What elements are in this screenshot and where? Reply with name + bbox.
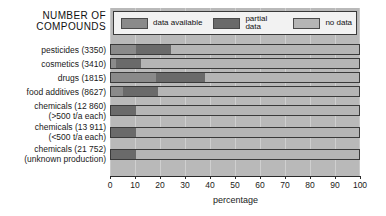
x-tick-label-60: 60 [255, 180, 264, 190]
x-tick-label-50: 50 [230, 180, 239, 190]
category-label-text-line2: (>500 t/a each) [34, 111, 106, 121]
x-tick-0 [110, 176, 111, 179]
x-tick-label-80: 80 [305, 180, 314, 190]
x-tick-label-100: 100 [353, 180, 367, 190]
category-label-text: drugs (1815) [58, 73, 106, 83]
bar-segment-partial [111, 128, 136, 137]
category-label-text: food additives (8627) [27, 87, 106, 97]
stacked-bar-chart: data available partial data no data NUMB… [0, 0, 386, 216]
category-label-chemicals-over-500: chemicals (12 860) (>500 t/a each) [34, 101, 106, 121]
category-label-chemicals-unknown: chemicals (21 752) (unknown production) [24, 144, 106, 164]
category-label-pesticides: pesticides (3350) [41, 45, 106, 55]
bar-pesticides [110, 44, 360, 55]
x-tick-100 [360, 176, 361, 179]
bar-segment-avail [111, 45, 136, 54]
bar-segment-none [205, 73, 359, 82]
bar-segment-avail [111, 87, 123, 96]
x-tick-10 [135, 176, 136, 179]
category-label-text: chemicals (21 752) [34, 144, 106, 154]
bar-segment-partial [111, 106, 136, 115]
bar-chemicals-over-500 [110, 105, 360, 116]
x-tick-70 [285, 176, 286, 179]
bars-container [110, 8, 360, 176]
category-label-drugs: drugs (1815) [58, 73, 106, 83]
bar-segment-none [171, 45, 359, 54]
category-label-text-line2: (unknown production) [24, 154, 106, 164]
x-tick-40 [210, 176, 211, 179]
bar-cosmetics [110, 58, 360, 69]
page-title-line2: COMPOUNDS [36, 21, 106, 32]
page-title-line1: NUMBER OF [42, 10, 106, 21]
x-tick-60 [260, 176, 261, 179]
bar-segment-none [136, 106, 359, 115]
x-tick-50 [235, 176, 236, 179]
category-label-text: chemicals (13 911) [35, 122, 106, 132]
x-tick-90 [335, 176, 336, 179]
x-axis-title: percentage [110, 195, 361, 205]
bar-segment-none [136, 128, 359, 137]
category-label-text: cosmetics (3410) [41, 59, 106, 69]
x-tick-30 [185, 176, 186, 179]
x-tick-label-0: 0 [108, 180, 113, 190]
x-tick-80 [310, 176, 311, 179]
x-tick-label-20: 20 [155, 180, 164, 190]
bar-segment-partial [116, 59, 141, 68]
bar-segment-none [136, 150, 359, 159]
bar-segment-partial [111, 150, 136, 159]
bar-segment-partial [136, 45, 171, 54]
category-label-text-line2: (<500 t/a each) [35, 132, 106, 142]
x-tick-label-90: 90 [330, 180, 339, 190]
category-label-text: pesticides (3350) [41, 45, 106, 55]
x-tick-20 [160, 176, 161, 179]
bar-segment-none [141, 59, 359, 68]
bar-chemicals-unknown [110, 149, 360, 160]
bar-segment-partial [123, 87, 158, 96]
x-tick-label-70: 70 [280, 180, 289, 190]
x-tick-label-40: 40 [205, 180, 214, 190]
page-title: NUMBER OF COMPOUNDS [36, 10, 106, 32]
bar-segment-partial [156, 73, 206, 82]
x-tick-label-10: 10 [130, 180, 139, 190]
category-label-text: chemicals (12 860) [34, 101, 106, 111]
x-tick-label-30: 30 [180, 180, 189, 190]
bar-segment-avail [111, 73, 156, 82]
category-label-food-additives: food additives (8627) [27, 87, 106, 97]
bar-chemicals-under-500 [110, 127, 360, 138]
category-label-cosmetics: cosmetics (3410) [41, 59, 106, 69]
category-axis: NUMBER OF COMPOUNDS pesticides (3350) co… [0, 8, 108, 176]
bar-segment-none [158, 87, 359, 96]
category-label-chemicals-under-500: chemicals (13 911) (<500 t/a each) [35, 122, 106, 142]
bar-drugs [110, 72, 360, 83]
bar-food-additives [110, 86, 360, 97]
